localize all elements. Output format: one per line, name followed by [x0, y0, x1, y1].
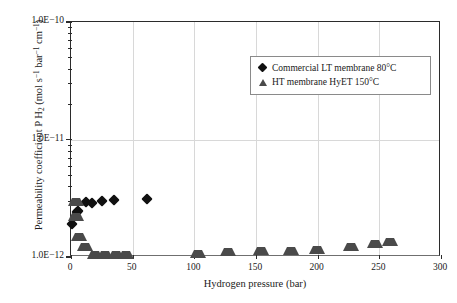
x-axis-tick-label: 250 — [358, 262, 398, 272]
y-axis-minor-tick — [68, 166, 72, 167]
gridline-horizontal — [71, 140, 439, 141]
y-axis-minor-tick — [68, 186, 72, 187]
legend-label-commercial-lt: Commercial LT membrane 80°C — [272, 63, 396, 73]
y-axis-minor-tick — [68, 151, 72, 152]
legend-label-ht-hyet: HT membrane HyET 150°C — [272, 77, 379, 87]
permeability-vs-pressure-chart: 1.0E−121.0E−111.0E−10 050100150200250300… — [0, 0, 457, 303]
y-axis-minor-tick — [68, 57, 72, 58]
y-axis-minor-tick — [68, 104, 72, 105]
y-axis-minor-tick — [68, 175, 72, 176]
x-axis-title-text: Hydrogen pressure (bar) — [204, 278, 307, 289]
x-axis-tick — [441, 255, 442, 259]
x-axis-tick — [379, 255, 380, 259]
x-axis-tick-label: 200 — [297, 262, 337, 272]
y-axis-minor-tick — [68, 69, 72, 70]
y-axis-tick — [66, 139, 72, 140]
legend-entry-commercial-lt: Commercial LT membrane 80°C — [257, 61, 424, 75]
y-axis-title: Permeability coefficient P H2 (mol s−1 b… — [32, 0, 46, 250]
y-axis-minor-tick — [68, 83, 72, 84]
y-axis-tick — [66, 21, 72, 22]
triangle-marker-icon — [257, 76, 269, 88]
y-axis-minor-tick — [68, 40, 72, 41]
chart-legend: Commercial LT membrane 80°C HT membrane … — [250, 56, 431, 95]
x-axis-title: Hydrogen pressure (bar) — [70, 278, 440, 289]
diamond-marker-icon — [257, 62, 269, 74]
y-axis-minor-tick — [68, 145, 72, 146]
legend-entry-ht-hyet: HT membrane HyET 150°C — [257, 75, 424, 89]
y-axis-tick-label: 1.0E−12 — [8, 250, 64, 260]
y-axis-title-text: Permeability coefficient P H2 (mol s−1 b… — [33, 20, 44, 231]
x-axis-tick-label: 0 — [50, 262, 90, 272]
x-axis-tick — [256, 255, 257, 259]
gridline-vertical — [133, 22, 134, 255]
x-axis-tick-label: 150 — [235, 262, 275, 272]
gridline-vertical — [194, 22, 195, 255]
x-axis-tick-label: 300 — [420, 262, 457, 272]
x-axis-tick-label: 50 — [112, 262, 152, 272]
y-axis-minor-tick — [68, 48, 72, 49]
x-axis-tick — [71, 255, 72, 259]
y-axis-minor-tick — [68, 27, 72, 28]
x-axis-tick-label: 100 — [173, 262, 213, 272]
x-axis-tick — [318, 255, 319, 259]
y-axis-minor-tick — [68, 33, 72, 34]
y-axis-minor-tick — [68, 158, 72, 159]
